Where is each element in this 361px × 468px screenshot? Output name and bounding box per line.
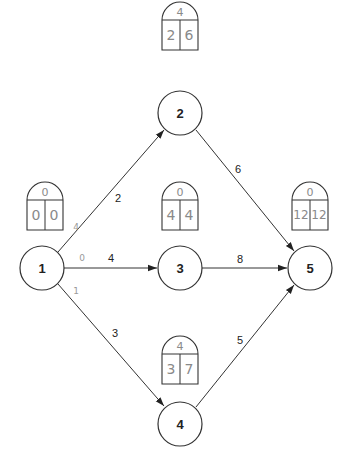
time-box-node-4: 4 3 7 [162,336,198,384]
time-box-node-1: 0 0 0 [27,182,63,230]
slack-node-2: 4 [177,6,184,19]
earliest-node-3: 4 [167,207,176,223]
edge-label-2-5: 6 [235,163,241,175]
time-box-node-5: 0 12 12 [292,182,328,230]
node-5-label: 5 [306,261,313,276]
latest-node-4: 7 [185,361,194,377]
latest-node-2: 6 [185,27,194,43]
node-3-label: 3 [176,261,183,276]
time-box-node-2: 4 2 6 [162,2,198,50]
earliest-node-4: 3 [167,361,176,377]
earliest-node-1: 0 [32,207,41,223]
latest-node-3: 4 [185,207,194,223]
node-5: 5 [288,246,332,290]
earliest-node-5: 12 [293,208,308,222]
node-2: 2 [158,91,202,135]
node-3: 3 [158,246,202,290]
slack-node-5: 0 [307,186,314,199]
earliest-node-2: 2 [167,27,176,43]
node-1: 1 [20,246,64,290]
edge-label-1-2: 2 [115,192,121,204]
node-1-label: 1 [38,261,45,276]
latest-node-1: 0 [50,207,59,223]
edge-label-1-3: 4 [108,252,114,264]
edge-label-4-5: 5 [237,334,243,346]
edge-4-5 [196,285,294,407]
edge-label-1-4: 3 [112,327,118,339]
note-edge-1-3: 0 [79,253,85,263]
network-diagram: 2 4 3 6 8 5 4 0 1 1 2 3 4 5 [0,0,361,468]
time-box-node-3: 0 4 4 [162,182,198,230]
latest-node-5: 12 [311,208,326,222]
edge-1-4 [58,284,164,406]
note-edge-1-4: 1 [73,286,79,296]
slack-node-4: 4 [177,340,184,353]
note-edge-1-2: 4 [73,222,79,232]
edge-2-5 [196,130,294,251]
edge-1-2 [58,130,164,252]
node-4: 4 [158,402,202,446]
slack-node-1: 0 [42,186,49,199]
slack-node-3: 0 [177,186,184,199]
edge-label-3-5: 8 [237,253,243,265]
node-2-label: 2 [176,106,183,121]
node-4-label: 4 [176,417,184,432]
